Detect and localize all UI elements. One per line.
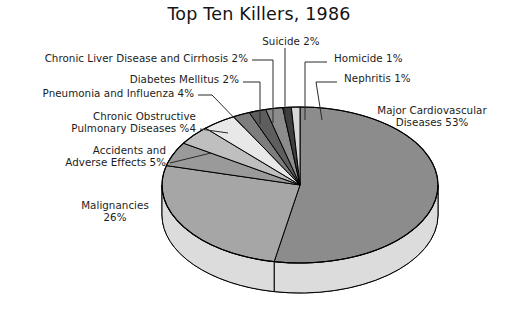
- label-cardio-line1: Major Cardiovascular: [377, 104, 486, 116]
- pie-chart-figure: Top Ten Killers, 1986 Major Cardiovascul…: [0, 0, 518, 311]
- label-copd-line1: Chronic Obstructive: [93, 110, 196, 122]
- label-major-cardiovascular: Major Cardiovascular Diseases 53%: [362, 105, 502, 128]
- label-nephritis: Nephritis 1%: [344, 73, 411, 85]
- label-suicide: Suicide 2%: [236, 36, 346, 48]
- label-accidents-adverse-effects: Accidents and Adverse Effects 5%: [20, 145, 166, 168]
- label-copd-line2: Pulmonary Diseases %4: [71, 122, 196, 134]
- pie-slices-group: Major Cardiovascular Diseases 53%Maligna…: [162, 107, 438, 293]
- label-copd: Chronic Obstructive Pulmonary Diseases %…: [40, 111, 196, 134]
- label-accidents-line1: Accidents and: [93, 144, 166, 156]
- label-malignancies-line1: Malignancies: [81, 199, 149, 211]
- label-cardio-line2: Diseases 53%: [396, 116, 469, 128]
- label-diabetes-mellitus: Diabetes Mellitus 2%: [20, 74, 239, 86]
- label-homicide: Homicide 1%: [334, 53, 403, 65]
- label-chronic-liver-disease: Chronic Liver Disease and Cirrhosis 2%: [8, 53, 248, 65]
- label-malignancies-line2: 26%: [103, 211, 126, 223]
- label-accidents-line2: Adverse Effects 5%: [65, 156, 166, 168]
- label-pneumonia-influenza: Pneumonia and Influenza 4%: [6, 88, 194, 100]
- label-malignancies: Malignancies 26%: [56, 200, 174, 223]
